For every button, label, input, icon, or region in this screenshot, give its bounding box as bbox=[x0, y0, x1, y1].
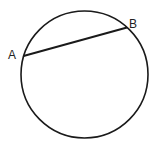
circle-chord-diagram: A B bbox=[0, 0, 155, 144]
point-a-label: A bbox=[8, 48, 16, 62]
chord-ab bbox=[24, 28, 128, 57]
point-b-label: B bbox=[129, 17, 137, 31]
